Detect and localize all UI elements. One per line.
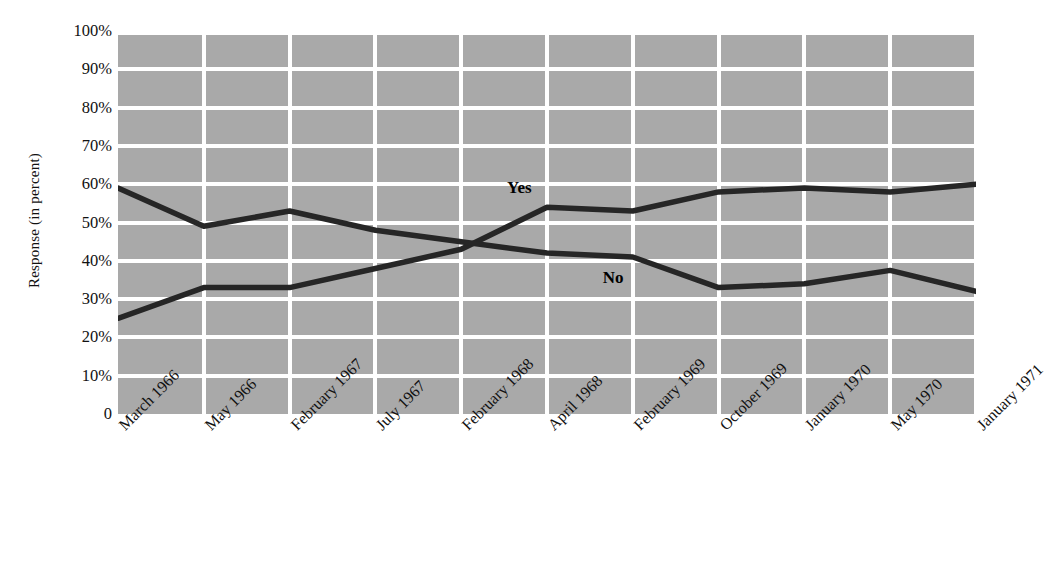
x-tick-label: February 1967: [288, 356, 366, 434]
x-tick-label: February 1969: [631, 356, 709, 434]
x-tick-label: February 1968: [459, 356, 537, 434]
x-tick-label: January 1970: [802, 361, 874, 433]
x-tick-label: March 1966: [116, 367, 182, 433]
x-tick-label: July 1967: [373, 378, 429, 434]
x-tick-label: May 1970: [888, 376, 946, 434]
x-tick-label: January 1971: [974, 361, 1046, 433]
x-tick-label: May 1966: [202, 376, 260, 434]
x-tick-label: October 1969: [717, 360, 790, 433]
x-tick-label: April 1968: [545, 373, 606, 434]
